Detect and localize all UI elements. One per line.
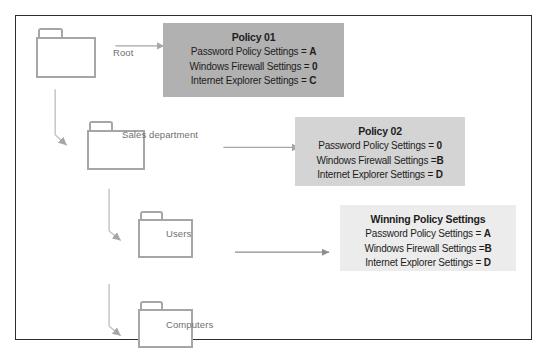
setting-label: Password Policy Settings = [191,46,309,57]
setting-value: D [436,169,443,180]
setting-value: 0 [312,61,317,72]
arrow-sales-to-users [109,231,121,241]
setting-label: Windows Firewall Settings = [365,243,485,254]
setting-label: Internet Explorer Settings = [317,169,435,180]
policy-setting-row: Windows Firewall Settings =B [340,242,516,257]
setting-label: Internet Explorer Settings = [191,75,309,86]
policy-title: Winning Policy Settings [340,212,516,227]
folder-tab-cut [140,222,163,226]
tree-label-sales: Sales department [122,129,198,140]
setting-value: D [484,257,491,268]
folder-icon-root[interactable] [36,28,96,78]
policy-setting-row: Password Policy Settings = 0 [295,139,465,154]
policy-setting-row: Internet Explorer Settings = C [163,74,344,89]
tree-label-users: Users [166,228,191,239]
setting-value: B [484,243,491,254]
tree-label-root: Root [113,47,133,58]
folder-tab-cut [89,133,113,137]
policy-title: Policy 01 [163,30,344,45]
policy-setting-row: Windows Firewall Settings = 0 [163,60,344,75]
policy-title: Policy 02 [295,124,465,139]
arrow-sales-to-computers [109,326,121,336]
setting-label: Windows Firewall Settings = [190,61,313,72]
folder-tab-cut [38,40,63,44]
policy-setting-row: Password Policy Settings = A [163,45,344,60]
policy-setting-row: Windows Firewall Settings =B [295,154,465,169]
setting-value: A [484,228,491,239]
folder-tab-cut [140,312,163,316]
setting-value: A [309,46,316,57]
policy-setting-row: Password Policy Settings = A [340,227,516,242]
policy-box-policy02[interactable]: Policy 02 Password Policy Settings = 0 W… [295,117,465,186]
arrow-root-to-sales [55,135,67,146]
diagram-canvas: Root Sales department Users Computers Po… [0,0,547,355]
setting-label: Internet Explorer Settings = [365,257,483,268]
policy-box-winning[interactable]: Winning Policy Settings Password Policy … [340,205,516,271]
setting-label: Password Policy Settings = [365,228,483,239]
setting-value: B [436,155,443,166]
tree-label-computers: Computers [166,319,213,330]
setting-label: Password Policy Settings = [318,140,436,151]
policy-setting-row: Internet Explorer Settings = D [295,168,465,183]
policy-box-policy01[interactable]: Policy 01 Password Policy Settings = A W… [163,23,344,97]
setting-label: Windows Firewall Settings = [317,155,437,166]
setting-value: C [309,75,316,86]
setting-value: 0 [436,140,441,151]
policy-setting-row: Internet Explorer Settings = D [340,256,516,271]
